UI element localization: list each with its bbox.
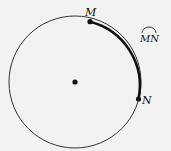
- point-m: [87, 19, 92, 24]
- label-m: M: [84, 6, 97, 19]
- point-n: [136, 96, 141, 101]
- arc-notation-text: MN: [139, 33, 160, 44]
- label-n: N: [141, 94, 152, 107]
- diagram-canvas: M N MN: [0, 0, 171, 151]
- center-point: [72, 79, 77, 84]
- arc-mn: [90, 22, 140, 99]
